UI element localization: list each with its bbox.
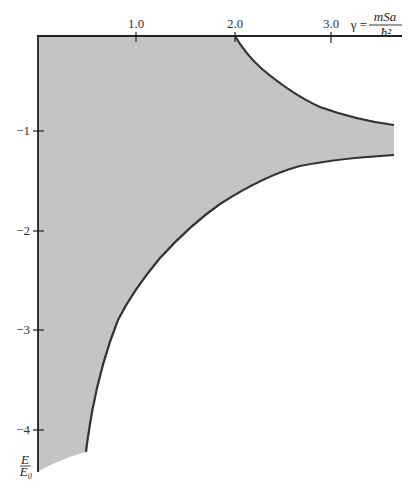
- x-axis-title-denominator: ħ²: [381, 25, 393, 40]
- x-axis-title-lhs: γ =: [350, 17, 367, 32]
- x-tick-label: 2.0: [227, 16, 243, 31]
- x-tick-label: 1.0: [128, 16, 144, 31]
- y-tick-label: −4: [16, 422, 30, 437]
- y-tick-label: −3: [16, 322, 30, 337]
- y-axis-title-denominator: E₀: [19, 464, 32, 479]
- shaded-band: [38, 36, 394, 472]
- energy-band-chart: 1.0 2.0 3.0 −1 −2 −3 −4 γ = mSa ħ² E E₀: [0, 0, 416, 489]
- y-tick-label: −2: [16, 223, 30, 238]
- x-tick-label: 3.0: [323, 16, 339, 31]
- y-tick-labels: −1 −2 −3 −4: [16, 123, 30, 437]
- y-tick-label: −1: [16, 123, 30, 138]
- x-tick-labels: 1.0 2.0 3.0: [128, 16, 339, 31]
- x-axis-title-numerator: mSa: [374, 9, 397, 24]
- y-axis-title: E E₀: [19, 452, 32, 479]
